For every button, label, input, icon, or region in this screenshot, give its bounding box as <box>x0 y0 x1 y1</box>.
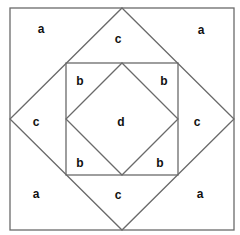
label-a-bottom-left: a <box>33 187 40 201</box>
label-b-top-left: b <box>76 74 83 88</box>
nested-squares-diagram: a a a a c c c c b b b b d <box>0 0 240 235</box>
label-a-top-left: a <box>38 22 45 36</box>
label-b-bottom-right: b <box>156 156 163 170</box>
label-b-bottom-left: b <box>76 156 83 170</box>
label-d-center: d <box>117 115 124 129</box>
label-c-left: c <box>33 115 40 129</box>
label-a-top-right: a <box>198 23 205 37</box>
label-c-top: c <box>115 32 122 46</box>
label-b-top-right: b <box>160 74 167 88</box>
label-c-right: c <box>194 115 201 129</box>
label-a-bottom-right: a <box>197 187 204 201</box>
label-c-bottom: c <box>115 188 122 202</box>
